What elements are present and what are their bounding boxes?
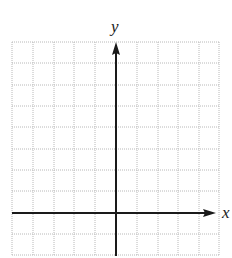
- x-axis: [12, 209, 216, 217]
- y-axis-label: y: [111, 18, 119, 35]
- coordinate-grid: [0, 0, 232, 258]
- x-axis-label: x: [222, 204, 230, 221]
